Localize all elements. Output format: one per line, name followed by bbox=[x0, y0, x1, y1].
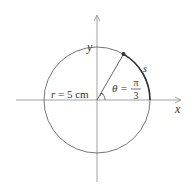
point-on-circle bbox=[122, 52, 126, 56]
circle-arc-diagram: y x s r = 5 cm θ = π 3 bbox=[0, 0, 193, 191]
y-axis-label: y bbox=[86, 40, 93, 54]
radius-value: = 5 cm bbox=[58, 88, 89, 100]
angle-denominator: 3 bbox=[134, 90, 139, 101]
angle-arrow-icon bbox=[100, 93, 104, 96]
angle-symbol: θ = bbox=[112, 82, 128, 94]
radius-var: r bbox=[51, 88, 56, 100]
arc-label: s bbox=[143, 63, 147, 74]
angle-numerator: π bbox=[133, 77, 138, 88]
x-axis-label: x bbox=[174, 102, 181, 116]
